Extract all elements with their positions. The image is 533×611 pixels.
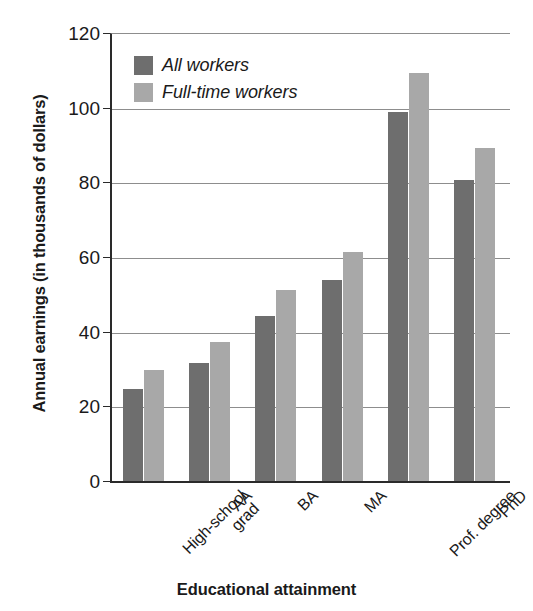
x-axis-tick-labels: High-school gradAABAMAProf. degreePhD xyxy=(0,0,533,611)
x-axis-tick-label: MA xyxy=(361,487,390,516)
x-axis-tick-label: BA xyxy=(294,487,321,514)
bar-chart: Annual earnings (in thousands of dollars… xyxy=(0,0,533,611)
x-axis-title: Educational attainment xyxy=(0,580,533,599)
